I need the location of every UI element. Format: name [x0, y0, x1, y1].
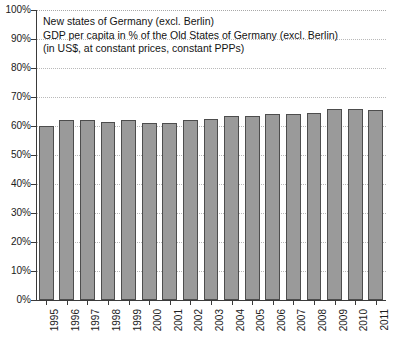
x-tick-2005	[252, 300, 253, 305]
bar-2002	[183, 120, 198, 300]
bar-2011	[368, 110, 383, 300]
x-tick-2000	[149, 300, 150, 305]
x-tick-2011	[376, 300, 377, 305]
x-tick-label-2006: 2006	[277, 309, 287, 331]
bar-2004	[224, 116, 239, 300]
x-tick-label-2004: 2004	[236, 309, 246, 331]
x-tick-1998	[108, 300, 109, 305]
bar-1996	[59, 120, 74, 300]
y-tick-label-40: 40%	[0, 179, 31, 189]
x-tick-2009	[335, 300, 336, 305]
bar-2010	[348, 109, 363, 300]
chart-title-line-1: New states of Germany (excl. Berlin)	[43, 15, 338, 29]
bar-1998	[101, 122, 116, 300]
x-tick-1997	[87, 300, 88, 305]
bar-chart: 100%90%80%70%60%50%40%30%20%10%0% 199519…	[0, 0, 396, 344]
bar-1997	[80, 120, 95, 300]
y-tick-label-70: 70%	[0, 92, 31, 102]
x-tick-label-1999: 1999	[133, 309, 143, 331]
x-tick-2002	[190, 300, 191, 305]
x-tick-2004	[232, 300, 233, 305]
bar-2000	[142, 123, 157, 300]
x-tick-label-2003: 2003	[215, 309, 225, 331]
x-tick-label-2007: 2007	[297, 309, 307, 331]
x-tick-2001	[170, 300, 171, 305]
x-tick-label-2010: 2010	[359, 309, 369, 331]
x-tick-label-2000: 2000	[153, 309, 163, 331]
bar-1995	[39, 126, 54, 300]
x-tick-label-1998: 1998	[112, 309, 122, 331]
bar-2006	[265, 114, 280, 300]
x-tick-label-2009: 2009	[339, 309, 349, 331]
x-tick-1996	[67, 300, 68, 305]
bar-1999	[121, 120, 136, 300]
y-tick-label-90: 90%	[0, 34, 31, 44]
x-tick-2008	[314, 300, 315, 305]
y-tick-label-30: 30%	[0, 208, 31, 218]
chart-title-block: New states of Germany (excl. Berlin) GDP…	[43, 15, 338, 56]
chart-title-line-2: GDP per capita in % of the Old States of…	[43, 29, 338, 43]
y-tick-label-0: 0%	[0, 295, 31, 305]
x-tick-label-1997: 1997	[91, 309, 101, 331]
bar-2001	[162, 123, 177, 300]
x-tick-label-2008: 2008	[318, 309, 328, 331]
bar-2007	[286, 114, 301, 300]
x-tick-label-1995: 1995	[50, 309, 60, 331]
x-tick-label-1996: 1996	[71, 309, 81, 331]
bar-2003	[204, 119, 219, 300]
y-tick-label-80: 80%	[0, 63, 31, 73]
x-tick-1999	[129, 300, 130, 305]
x-tick-2010	[355, 300, 356, 305]
x-tick-2003	[211, 300, 212, 305]
x-tick-1995	[46, 300, 47, 305]
y-tick-label-50: 50%	[0, 150, 31, 160]
y-tick-label-20: 20%	[0, 237, 31, 247]
y-tick-label-10: 10%	[0, 266, 31, 276]
bar-2005	[245, 116, 260, 300]
x-tick-label-2002: 2002	[194, 309, 204, 331]
x-tick-label-2011: 2011	[380, 309, 390, 331]
chart-title-line-3: (in US$, at constant prices, constant PP…	[43, 42, 338, 56]
y-tick-label-100: 100%	[0, 5, 31, 15]
bar-2008	[307, 113, 322, 300]
x-tick-2007	[293, 300, 294, 305]
y-tick-label-60: 60%	[0, 121, 31, 131]
x-tick-label-2001: 2001	[174, 309, 184, 331]
x-tick-2006	[273, 300, 274, 305]
x-tick-label-2005: 2005	[256, 309, 266, 331]
bar-2009	[327, 109, 342, 300]
